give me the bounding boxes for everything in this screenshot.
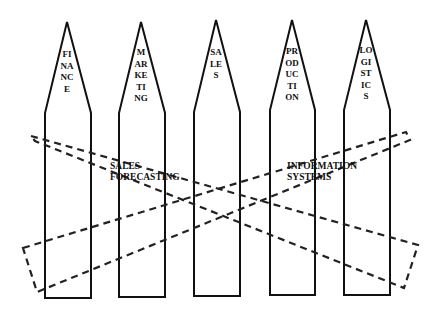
label-production: PRODUCTION <box>285 46 299 104</box>
information-systems-line1: INFORMATION <box>287 161 357 172</box>
label-information-systems: INFORMATION SYSTEMS <box>287 161 357 183</box>
label-marketing: MARKETING <box>134 47 148 105</box>
label-logistics: LOGISTICS <box>359 45 373 103</box>
sales-forecasting-line2: FORECASTING <box>110 172 180 183</box>
information-systems-line2: SYSTEMS <box>287 172 357 183</box>
sales-forecasting-line1: SALES <box>110 161 180 172</box>
label-finance: FINANCE <box>60 49 74 95</box>
label-sales-forecasting: SALES FORECASTING <box>110 161 180 183</box>
label-sales: SALES <box>209 47 223 82</box>
